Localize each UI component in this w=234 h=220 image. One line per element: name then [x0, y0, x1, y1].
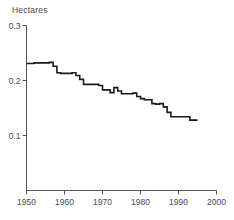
data-series-line — [27, 62, 198, 120]
x-tick-label: 2000 — [207, 197, 226, 207]
line-chart-plot: 0.10.20.3 195019601970198019902000 — [0, 0, 234, 220]
x-tick-label: 1980 — [131, 197, 150, 207]
x-axis-ticks: 195019601970198019902000 — [17, 191, 226, 207]
x-tick-label: 1960 — [55, 197, 74, 207]
y-tick-label: 0.3 — [9, 21, 21, 31]
y-tick-label: 0.1 — [9, 131, 21, 141]
y-tick-label: 0.2 — [9, 76, 21, 86]
y-axis-ticks: 0.10.20.3 — [9, 21, 27, 141]
x-tick-label: 1990 — [169, 197, 188, 207]
chart-axes — [27, 26, 217, 191]
x-tick-label: 1970 — [93, 197, 112, 207]
chart-figure: Hectares 0.10.20.3 195019601970198019902… — [0, 0, 234, 220]
x-tick-label: 1950 — [17, 197, 36, 207]
